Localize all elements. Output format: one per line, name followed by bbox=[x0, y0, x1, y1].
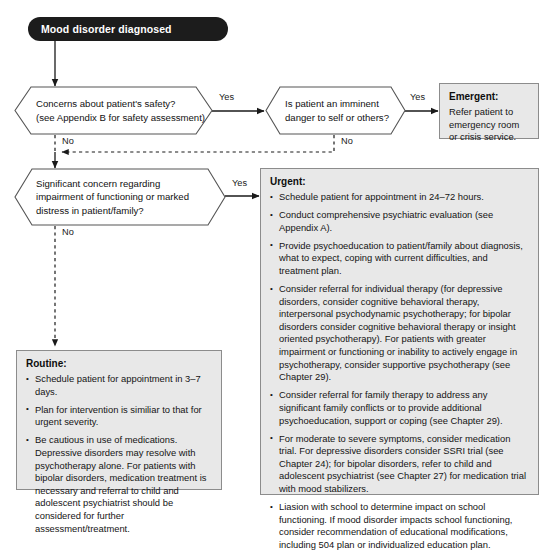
outcome-list-routine: Schedule patient for appointment in 3–7 … bbox=[26, 373, 212, 535]
edge-label-safety-yes: Yes bbox=[219, 92, 234, 102]
list-item: For moderate to severe symptoms, conside… bbox=[270, 433, 529, 496]
list-item: Consider referral for family therapy to … bbox=[270, 389, 529, 427]
decision-node-impairment-text: Significant concern regarding impairment… bbox=[36, 168, 204, 226]
start-node-label: Mood disorder diagnosed bbox=[41, 23, 172, 35]
list-item: Provide psychoeducation to patient/famil… bbox=[270, 240, 529, 278]
decision-line: impairment of functioning or marked bbox=[36, 190, 204, 203]
decision-line: Significant concern regarding bbox=[36, 177, 204, 190]
edge-label-impairment-no: No bbox=[62, 227, 74, 237]
outcome-title-routine: Routine: bbox=[26, 358, 212, 369]
edge-label-danger-no: No bbox=[341, 136, 353, 146]
decision-node-safety-text: Concerns about patient's safety? (see Ap… bbox=[36, 86, 191, 135]
decision-node-impairment: Significant concern regarding impairment… bbox=[14, 168, 226, 226]
decision-line: (see Appendix B for safety assessment) bbox=[36, 111, 191, 124]
decision-node-safety: Concerns about patient's safety? (see Ap… bbox=[14, 86, 213, 135]
outcome-title-urgent: Urgent: bbox=[270, 176, 529, 187]
edge-label-impairment-yes: Yes bbox=[232, 178, 247, 188]
list-item: Plan for intervention is similiar to tha… bbox=[26, 404, 212, 429]
outcome-box-routine: Routine: Schedule patient for appointmen… bbox=[16, 350, 222, 490]
decision-node-imminent-danger: Is patient an imminent danger to self or… bbox=[265, 86, 406, 135]
outcome-list-urgent: Schedule patient for appointment in 24–7… bbox=[270, 191, 529, 551]
list-item: Conduct comprehensive psychiatric evalua… bbox=[270, 209, 529, 234]
list-item: Consider referral for individual therapy… bbox=[270, 283, 529, 384]
outcome-box-emergent: Emergent: Refer patient to emergency roo… bbox=[439, 83, 539, 139]
list-item: Schedule patient for appointment in 3–7 … bbox=[26, 373, 212, 398]
outcome-body-emergent: Refer patient to emergency room or crisi… bbox=[449, 106, 529, 144]
decision-node-imminent-danger-text: Is patient an imminent danger to self or… bbox=[285, 86, 388, 135]
edge-label-danger-yes: Yes bbox=[410, 92, 425, 102]
decision-line: distress in patient/family? bbox=[36, 204, 204, 217]
decision-line: Concerns about patient's safety? bbox=[36, 97, 191, 110]
decision-line: Is patient an imminent bbox=[285, 97, 388, 110]
list-item: Liasion with school to determine impact … bbox=[270, 501, 529, 551]
decision-line: danger to self or others? bbox=[285, 111, 388, 124]
edge-label-safety-no: No bbox=[62, 136, 74, 146]
outcome-box-urgent: Urgent: Schedule patient for appointment… bbox=[260, 168, 539, 495]
list-item: Be cautious in use of medications. Depre… bbox=[26, 434, 212, 535]
start-node-mood-disorder-diagnosed: Mood disorder diagnosed bbox=[28, 17, 228, 41]
outcome-title-emergent: Emergent: bbox=[449, 91, 529, 102]
list-item: Schedule patient for appointment in 24–7… bbox=[270, 191, 529, 204]
